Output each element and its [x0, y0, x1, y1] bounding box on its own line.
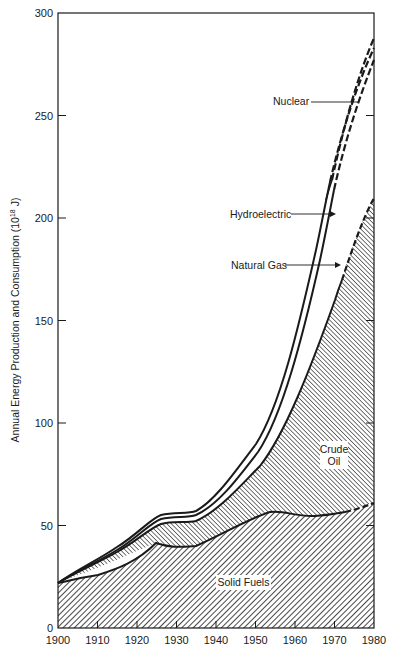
label-solid-fuels: Solid Fuels [218, 576, 270, 588]
label-nuclear: Nuclear [273, 95, 310, 107]
x-tick-1910: 1910 [85, 634, 109, 646]
x-tick-1930: 1930 [164, 634, 188, 646]
natural-gas-projection [334, 60, 374, 190]
x-tick-1960: 1960 [283, 634, 307, 646]
nuclear-projection [332, 38, 374, 180]
label-crude: Crude [320, 443, 349, 455]
y-tick-0: 0 [47, 622, 53, 634]
y-axis-label: Annual Energy Production and Consumption… [9, 198, 21, 443]
x-tick-1900: 1900 [46, 634, 70, 646]
y-tick-100: 100 [35, 417, 53, 429]
x-tick-1950: 1950 [243, 634, 267, 646]
arrow-natural-gas [335, 262, 341, 268]
y-tick-200: 200 [35, 212, 53, 224]
arrow-hydroelectric [330, 211, 336, 217]
x-tick-1940: 1940 [204, 634, 228, 646]
x-tick-1970: 1970 [322, 634, 346, 646]
y-tick-50: 50 [41, 520, 53, 532]
y-tick-250: 250 [35, 110, 53, 122]
energy-chart: 300 250 200 150 100 50 0 1900 1910 1920 … [0, 0, 393, 655]
y-tick-150: 150 [35, 315, 53, 327]
x-tick-1920: 1920 [125, 634, 149, 646]
x-tick-1980: 1980 [362, 634, 386, 646]
label-oil: Oil [328, 455, 341, 467]
y-tick-300: 300 [35, 7, 53, 19]
label-natural-gas: Natural Gas [231, 259, 287, 271]
label-hydroelectric: Hydroelectric [230, 208, 291, 220]
